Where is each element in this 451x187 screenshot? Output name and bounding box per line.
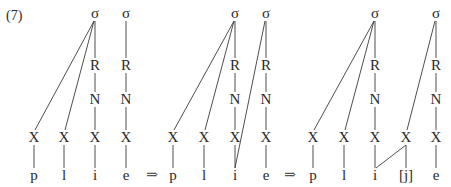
nucleus-node: N: [230, 91, 241, 107]
stage-2: XpXlXiXeσRNσRN: [168, 5, 272, 183]
syllable-node: σ: [91, 5, 99, 21]
nucleus-node: N: [90, 91, 101, 107]
nucleus-node: N: [370, 91, 381, 107]
syllable-node: σ: [432, 5, 440, 21]
skeletal-slot: X: [121, 129, 132, 145]
skeletal-slot: X: [199, 129, 210, 145]
segment: l: [202, 167, 206, 183]
rhyme-node: R: [230, 57, 240, 73]
skeletal-slot: X: [29, 129, 40, 145]
sigma-onset-line: [407, 21, 435, 130]
syllable-structure-diagram: (7) XpXlXiXeσRNσRNXpXlXiXeσRNσRNXpXlXiX[…: [0, 0, 451, 187]
segment: [j]: [399, 167, 413, 183]
segment: e: [123, 167, 130, 183]
segment: l: [62, 167, 66, 183]
segment: i: [93, 167, 97, 183]
skeletal-slot: X: [168, 129, 179, 145]
skeletal-slot: X: [261, 129, 272, 145]
sigma-onset-line: [205, 21, 234, 130]
segment: p: [309, 167, 317, 183]
stage-3: XpXlXiX[j]XeσRNσRN: [308, 5, 442, 183]
rhyme-node: R: [121, 57, 131, 73]
skeletal-slot: X: [370, 129, 381, 145]
segment: i: [233, 167, 237, 183]
stage-1: XpXlXiXeσRNσRN: [29, 5, 132, 183]
segment: i: [373, 167, 377, 183]
rhyme-node: R: [90, 57, 100, 73]
segment: e: [433, 167, 440, 183]
derivation-arrow: ⇒: [284, 167, 296, 182]
spreading-line: [376, 145, 406, 168]
nucleus-node: N: [121, 91, 132, 107]
syllable-node: σ: [262, 5, 270, 21]
syllable-node: σ: [371, 5, 379, 21]
skeletal-slot: X: [90, 129, 101, 145]
syllable-node: σ: [231, 5, 239, 21]
skeletal-slot: X: [431, 129, 442, 145]
segment: l: [342, 167, 346, 183]
sigma-onset-line: [345, 21, 374, 130]
skeletal-slot: X: [308, 129, 319, 145]
sigma-onset-line: [314, 21, 374, 130]
segment: p: [30, 167, 38, 183]
skeletal-slot: X: [401, 129, 412, 145]
skeletal-slot: X: [339, 129, 350, 145]
skeletal-slot: X: [230, 129, 241, 145]
rhyme-node: R: [370, 57, 380, 73]
rhyme-node: R: [431, 57, 441, 73]
derivation-arrow: ⇒: [146, 167, 158, 182]
nucleus-node: N: [261, 91, 272, 107]
nucleus-node: N: [431, 91, 442, 107]
sigma-onset-line: [35, 21, 94, 130]
segment: p: [169, 167, 177, 183]
rhyme-node: R: [261, 57, 271, 73]
skeletal-slot: X: [59, 129, 70, 145]
segment: e: [263, 167, 270, 183]
sigma-onset-line: [174, 21, 234, 130]
example-number: (7): [6, 8, 23, 24]
sigma-onset-line: [65, 21, 94, 130]
syllable-node: σ: [122, 5, 130, 21]
